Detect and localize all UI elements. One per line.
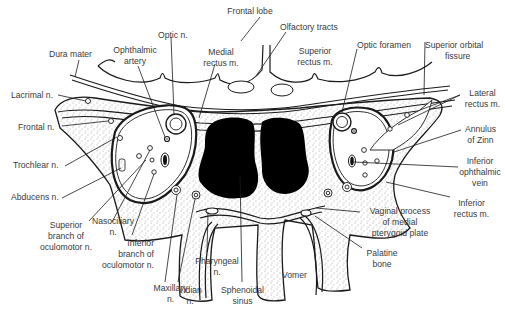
label-vidian-nerve: Vidian n. <box>170 285 210 307</box>
label-superior-orbital-fissure: Superior orbital fissure <box>425 40 483 62</box>
label-trochlear-nerve: Trochlear n. <box>13 160 59 171</box>
sphenoidal-sinus <box>199 117 309 198</box>
label-lacrimal-nerve: Lacrimal n. <box>11 90 53 101</box>
label-palatine-bone: Palatine bone <box>362 248 402 270</box>
label-superior-branch-oculomotor: Superior branch of oculomotor n. <box>36 220 96 253</box>
label-ophthalmic-artery: Ophthalmic artery <box>100 45 170 67</box>
label-medial-rectus: Medial rectus m. <box>196 47 246 69</box>
label-optic-nerve: Optic n. <box>158 30 188 41</box>
label-olfactory-tracts: Olfactory tracts <box>280 22 338 33</box>
label-sphenoidal-sinus: Sphenoidal sinus <box>215 285 270 307</box>
label-frontal-lobe: Frontal lobe <box>210 6 290 17</box>
label-optic-foramen: Optic foramen <box>357 40 411 51</box>
label-dura-mater: Dura mater <box>49 49 92 60</box>
label-inferior-branch-oculomotor: Inferior branch of oculomotor n. <box>94 238 154 271</box>
label-lateral-rectus: Lateral rectus m. <box>460 88 505 110</box>
label-abducens-nerve: Abducens n. <box>11 192 59 203</box>
label-inferior-ophthalmic-vein: Inferior ophthalmic vein <box>455 156 505 189</box>
label-frontal-nerve: Frontal n. <box>18 122 54 133</box>
label-annulus-of-zinn: Annulus of Zinn <box>458 124 503 146</box>
label-vomer: Vomer <box>282 270 307 281</box>
label-superior-rectus: Superior rectus m. <box>290 46 340 68</box>
label-pharyngeal-nerve: Pharyngeal n. <box>192 256 242 278</box>
olfactory-tracts <box>228 81 293 96</box>
right-orbital-apex <box>330 100 432 190</box>
label-vaginal-process: Vaginal process of medial pterygoid plat… <box>360 206 440 239</box>
label-inferior-rectus: Inferior rectus m. <box>444 198 499 220</box>
